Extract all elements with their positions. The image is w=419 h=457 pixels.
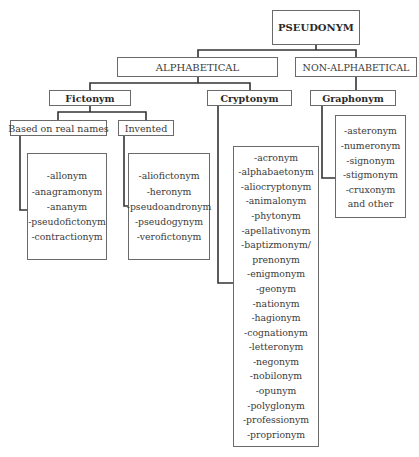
connector-real-names [20,136,27,210]
list-item: -pseudogynym [135,214,203,229]
list-item: -nobilonym [250,369,302,384]
cryptonym-list-box: -acronym -alphabaetonym -aliocryptonym -… [233,146,319,447]
list-item: -stigmonym [343,168,398,183]
graphonym-label: Graphonym [322,93,384,104]
invented-list-box: -aliofictonym -heronym -pseudoandronym -… [128,153,210,260]
connector-fictonym [58,105,146,120]
list-item: -cognationym [244,326,308,341]
list-item: prenonym [252,253,300,268]
list-item: -letteronym [249,340,304,355]
real-names-list-box: -allonym -anagramonym -ananym -pseudofic… [27,153,107,260]
list-item: -allonym [47,168,87,183]
list-item: -animalonym [246,194,307,209]
list-item: -nationym [252,297,299,312]
connector-root [198,45,356,57]
list-item: -opunym [256,384,297,399]
list-item: -heronym [147,184,192,199]
list-item: -aliocryptonym [241,180,311,195]
alphabetical-label: ALPHABETICAL [156,62,239,73]
connector-alphabetical [90,77,250,90]
list-item: -asteronym [344,124,397,139]
list-item: -professionym [243,413,309,428]
invented-box: Invented [118,120,174,136]
non-alphabetical-label: NON-ALPHABETICAL [303,62,410,73]
list-item: -aliofictonym [138,168,199,183]
connector-graphonym [322,105,335,178]
list-item: and other [348,198,394,209]
list-item: -baptizmonym/ [241,238,311,253]
graphonym-list-box: -asteronym -numeronym -signonym -stigmon… [335,115,406,218]
list-item: -polyglonym [247,399,305,414]
list-item: -contractionym [31,229,102,244]
list-item: -numeronym [341,139,401,154]
fictonym-box: Fictonym [49,90,131,106]
list-item: -anagramonym [32,184,103,199]
based-on-real-names-label: Based on real names [8,123,108,134]
list-item: -acronym [254,151,298,166]
list-item: -pseudofictonym [28,214,106,229]
list-item: -pseudoandronym [127,199,211,214]
based-on-real-names-box: Based on real names [10,120,107,136]
list-item: -alphabaetonym [238,165,314,180]
list-item: -verofictonym [137,229,202,244]
invented-label: Invented [125,123,168,134]
root-label: PSEUDONYM [278,22,354,33]
list-item: -proprionym [247,428,305,443]
list-item: -hagionym [251,311,300,326]
cryptonym-label: Cryptonym [221,93,279,104]
list-item: -ananym [47,199,87,214]
pseudonym-root-box: PSEUDONYM [272,10,360,45]
fictonym-label: Fictonym [65,93,114,104]
list-item: -geonym [256,282,296,297]
list-item: -phytonym [251,209,301,224]
list-item: -signonym [346,154,394,169]
list-item: -enigmonym [247,267,305,282]
cryptonym-box: Cryptonym [207,90,292,106]
list-item: -cruxonym [346,183,396,198]
alphabetical-box: ALPHABETICAL [117,57,278,77]
non-alphabetical-box: NON-ALPHABETICAL [295,57,417,77]
list-item: -apellativonym [241,224,310,239]
connector-cryptonym [218,105,233,283]
graphonym-box: Graphonym [310,90,396,106]
list-item: -negonym [253,355,299,370]
